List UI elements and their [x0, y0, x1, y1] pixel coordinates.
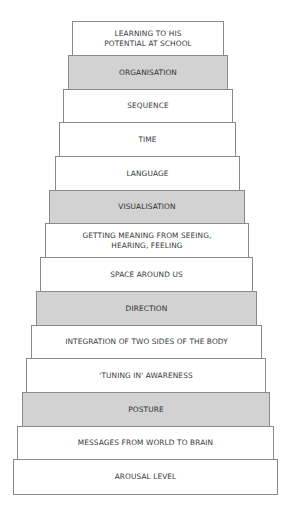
step-language: LANGUAGE	[55, 156, 240, 191]
step-learning-potential: LEARNING TO HIS POTENTIAL AT SCHOOL	[72, 21, 224, 56]
step-time: TIME	[59, 122, 236, 157]
step-label: INTEGRATION OF TWO SIDES OF THE BODY	[65, 337, 228, 347]
step-integration: INTEGRATION OF TWO SIDES OF THE BODY	[31, 325, 262, 359]
step-posture: POSTURE	[22, 392, 270, 427]
step-arousal-level: AROUSAL LEVEL	[13, 459, 278, 495]
step-organisation: ORGANISATION	[68, 55, 228, 90]
step-visualisation: VISUALISATION	[49, 190, 245, 224]
staircase-diagram: LEARNING TO HIS POTENTIAL AT SCHOOL ORGA…	[0, 0, 291, 526]
step-label: POSTURE	[128, 405, 163, 415]
step-getting-meaning: GETTING MEANING FROM SEEING, HEARING, FE…	[45, 223, 249, 258]
step-space-around-us: SPACE AROUND US	[40, 257, 253, 292]
step-direction: DIRECTION	[36, 291, 257, 326]
step-label: SPACE AROUND US	[110, 270, 182, 280]
step-label: AROUSAL LEVEL	[115, 472, 177, 482]
step-label: SEQUENCE	[127, 101, 168, 111]
step-label: LEARNING TO HIS POTENTIAL AT SCHOOL	[104, 29, 192, 49]
step-tuning-in: 'TUNING IN' AWARENESS	[26, 358, 266, 393]
step-label: TIME	[138, 135, 156, 145]
step-label: ORGANISATION	[119, 68, 177, 78]
step-label: GETTING MEANING FROM SEEING, HEARING, FE…	[82, 231, 211, 251]
step-label: MESSAGES FROM WORLD TO BRAIN	[78, 438, 213, 448]
step-label: VISUALISATION	[118, 202, 175, 212]
step-label: DIRECTION	[126, 304, 168, 314]
step-messages: MESSAGES FROM WORLD TO BRAIN	[17, 426, 274, 460]
step-sequence: SEQUENCE	[63, 89, 233, 123]
step-label: 'TUNING IN' AWARENESS	[99, 371, 192, 381]
step-label: LANGUAGE	[126, 169, 168, 179]
